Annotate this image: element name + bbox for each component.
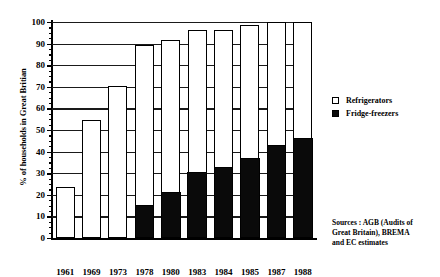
y-tick-0 bbox=[47, 238, 52, 239]
x-tick-label-1973: 1973 bbox=[109, 267, 127, 277]
x-tick-label-1983: 1983 bbox=[188, 267, 206, 277]
x-tick-label-1961: 1961 bbox=[56, 267, 74, 277]
bar-segment-fridge-freezers-1987 bbox=[267, 145, 287, 239]
y-tick-label-30: 30 bbox=[36, 168, 45, 178]
y-tick-minor bbox=[49, 27, 52, 28]
bar-1988 bbox=[293, 22, 312, 238]
sources-note: Sources : AGB (Audits of Great Britain),… bbox=[332, 218, 438, 248]
y-tick-minor bbox=[49, 222, 52, 223]
bar-segment-fridge-freezers-1980 bbox=[161, 192, 181, 238]
bar-1985 bbox=[240, 25, 259, 238]
y-tick-label-90: 90 bbox=[36, 39, 45, 49]
y-tick-minor bbox=[49, 233, 52, 234]
y-tick-minor bbox=[49, 189, 52, 190]
y-tick-minor bbox=[49, 125, 52, 126]
legend-label: Fridge-freezers bbox=[346, 109, 398, 118]
y-tick-minor bbox=[49, 184, 52, 185]
y-tick-minor bbox=[49, 49, 52, 50]
x-tick-label-1988: 1988 bbox=[294, 267, 312, 277]
y-tick-label-20: 20 bbox=[36, 190, 45, 200]
y-tick-60 bbox=[47, 108, 52, 109]
y-tick-minor bbox=[49, 157, 52, 158]
bar-1973 bbox=[108, 86, 127, 238]
chart-legend: RefrigeratorsFridge-freezers bbox=[332, 96, 398, 122]
legend-item-fridge-freezers: Fridge-freezers bbox=[332, 109, 398, 118]
sources-line-3: and EC estimates bbox=[332, 238, 438, 248]
y-axis-title: % of households in Great Britian bbox=[18, 32, 28, 222]
bar-1987 bbox=[267, 22, 286, 238]
bar-segment-fridge-freezers-1983 bbox=[187, 172, 207, 239]
y-tick-minor bbox=[49, 206, 52, 207]
sources-line-1: Sources : AGB (Audits of bbox=[332, 218, 438, 228]
y-tick-minor bbox=[49, 103, 52, 104]
y-tick-50 bbox=[47, 130, 52, 131]
y-tick-minor bbox=[49, 200, 52, 201]
y-tick-40 bbox=[47, 152, 52, 153]
sources-line-2: Great Britain), BREMA bbox=[332, 228, 438, 238]
y-tick-minor bbox=[49, 92, 52, 93]
bar-segment-fridge-freezers-1985 bbox=[240, 158, 260, 239]
bar-1980 bbox=[161, 40, 180, 238]
y-tick-label-50: 50 bbox=[36, 125, 45, 135]
y-tick-70 bbox=[47, 87, 52, 88]
x-tick-label-1969: 1969 bbox=[83, 267, 101, 277]
y-tick-minor bbox=[49, 119, 52, 120]
y-tick-label-40: 40 bbox=[36, 147, 45, 157]
y-tick-minor bbox=[49, 98, 52, 99]
y-tick-90 bbox=[47, 44, 52, 45]
bar-segment-fridge-freezers-1984 bbox=[214, 167, 234, 238]
y-tick-30 bbox=[47, 173, 52, 174]
y-tick-20 bbox=[47, 195, 52, 196]
y-tick-minor bbox=[49, 81, 52, 82]
y-tick-label-80: 80 bbox=[36, 60, 45, 70]
legend-item-refrigerators: Refrigerators bbox=[332, 96, 398, 105]
y-tick-10 bbox=[47, 216, 52, 217]
x-tick-label-1980: 1980 bbox=[162, 267, 180, 277]
y-tick-minor bbox=[49, 54, 52, 55]
y-tick-100 bbox=[47, 22, 52, 23]
y-tick-label-0: 0 bbox=[41, 233, 46, 243]
plot-area: 0102030405060708090100 19611969197319781… bbox=[52, 22, 316, 238]
legend-swatch-icon bbox=[332, 110, 339, 117]
y-tick-minor bbox=[49, 60, 52, 61]
bar-1978 bbox=[135, 45, 154, 238]
bar-1983 bbox=[188, 30, 207, 238]
y-tick-label-60: 60 bbox=[36, 103, 45, 113]
bar-1961 bbox=[56, 187, 75, 238]
y-tick-minor bbox=[49, 114, 52, 115]
y-tick-minor bbox=[49, 146, 52, 147]
bar-segment-fridge-freezers-1978 bbox=[135, 205, 155, 238]
y-tick-80 bbox=[47, 65, 52, 66]
bar-1984 bbox=[214, 30, 233, 238]
bar-1969 bbox=[82, 120, 101, 238]
x-tick-label-1978: 1978 bbox=[135, 267, 153, 277]
y-tick-minor bbox=[49, 179, 52, 180]
y-tick-minor bbox=[49, 76, 52, 77]
y-tick-label-10: 10 bbox=[36, 211, 45, 221]
y-tick-minor bbox=[49, 168, 52, 169]
legend-swatch-icon bbox=[332, 97, 339, 104]
x-tick-label-1987: 1987 bbox=[267, 267, 285, 277]
y-tick-minor bbox=[49, 38, 52, 39]
y-tick-label-100: 100 bbox=[32, 17, 46, 27]
x-tick-label-1984: 1984 bbox=[215, 267, 233, 277]
bar-segment-fridge-freezers-1988 bbox=[293, 138, 313, 238]
legend-label: Refrigerators bbox=[346, 96, 392, 105]
y-tick-minor bbox=[49, 211, 52, 212]
y-tick-minor bbox=[49, 141, 52, 142]
x-tick-label-1985: 1985 bbox=[241, 267, 259, 277]
y-tick-minor bbox=[49, 227, 52, 228]
y-tick-label-70: 70 bbox=[36, 82, 45, 92]
y-tick-minor bbox=[49, 135, 52, 136]
y-tick-minor bbox=[49, 71, 52, 72]
y-tick-minor bbox=[49, 162, 52, 163]
y-tick-minor bbox=[49, 33, 52, 34]
